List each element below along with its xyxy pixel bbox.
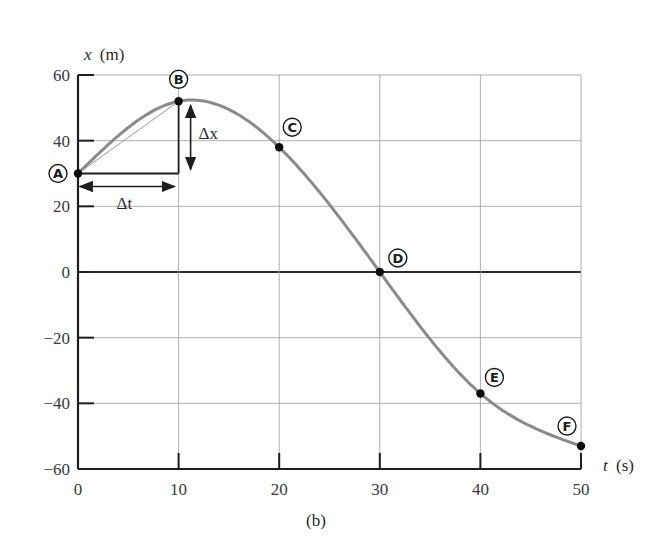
x-tick-label: 0	[74, 480, 83, 499]
delta-construction: ΔtΔx	[78, 101, 219, 212]
point-label-f: F	[563, 419, 572, 434]
figure-caption: (b)	[306, 511, 326, 530]
data-point-b	[174, 97, 182, 105]
y-axis-title: x (m)	[83, 45, 124, 64]
data-point-c	[275, 143, 283, 151]
x-tick-label: 30	[371, 480, 388, 499]
y-tick-label: 60	[53, 66, 70, 85]
x-tick-label: 20	[271, 480, 288, 499]
y-tick-label: −60	[43, 460, 70, 479]
point-label-a: A	[53, 166, 63, 181]
delta-x-label: Δx	[199, 124, 219, 143]
data-point-e	[476, 389, 484, 397]
data-point-f	[577, 442, 585, 450]
y-tick-label: 40	[53, 132, 70, 151]
point-label-c: C	[287, 120, 297, 135]
x-tick-label: 40	[472, 480, 489, 499]
y-tick-label: −40	[43, 394, 70, 413]
position-time-chart: −60−40−20020406001020304050 ΔtΔx ABCDEF …	[0, 0, 665, 549]
x-tick-label: 50	[573, 480, 590, 499]
y-tick-label: 0	[62, 263, 71, 282]
data-point-a	[74, 169, 82, 177]
grid-lines	[78, 75, 581, 469]
x-axis-title: t (s)	[603, 456, 634, 475]
secant-line	[78, 101, 179, 173]
x-tick-label: 10	[170, 480, 187, 499]
data-point-d	[376, 268, 384, 276]
point-label-b: B	[174, 72, 184, 87]
point-label-e: E	[490, 370, 499, 385]
y-tick-label: 20	[53, 197, 70, 216]
delta-t-label: Δt	[116, 194, 132, 213]
point-label-d: D	[392, 251, 403, 266]
y-tick-label: −20	[43, 329, 70, 348]
